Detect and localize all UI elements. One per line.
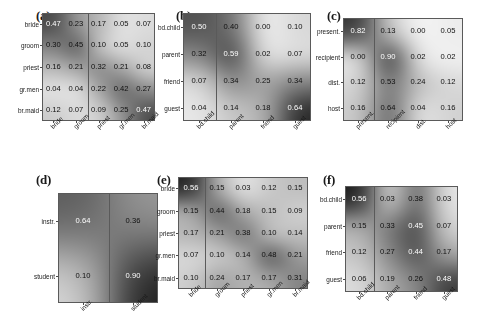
heatmap-cell-value: 0.10 bbox=[91, 42, 106, 50]
heatmap-cell-value: 0.27 bbox=[136, 85, 151, 93]
heatmap-cell-value: 0.47 bbox=[136, 106, 151, 114]
heatmap-cell-value: 0.05 bbox=[114, 20, 129, 28]
axis-tick-x bbox=[191, 289, 192, 291]
heatmap-row-label: gr.men bbox=[155, 252, 177, 259]
axis-tick-y bbox=[341, 82, 343, 83]
axis-tick-x bbox=[99, 121, 100, 123]
heatmap-image-c bbox=[343, 18, 463, 121]
heatmap-cell-value: 0.14 bbox=[224, 104, 239, 112]
heatmap-col-label: parent bbox=[383, 283, 401, 301]
heatmap-col-label: instr. bbox=[79, 297, 93, 311]
heatmap-col-label: groom bbox=[213, 280, 231, 298]
heatmap-cell-value: 0.14 bbox=[236, 252, 251, 260]
heatmap-cell-value: 0.82 bbox=[351, 27, 366, 35]
axis-tick-x bbox=[358, 121, 359, 123]
heatmap-col-label: friend bbox=[412, 285, 428, 301]
heatmap-row-label: host bbox=[328, 105, 342, 112]
heatmap-col-label: bd.child bbox=[355, 280, 376, 301]
heatmap-row-label: bd.child bbox=[320, 196, 344, 203]
heatmap-cell-value: 0.18 bbox=[256, 104, 271, 112]
heatmap-grid-d: 0.640.360.100.90instr.studentinstr.stude… bbox=[58, 193, 158, 303]
heatmap-grid-a: 0.470.230.170.050.070.300.450.100.050.10… bbox=[42, 13, 155, 121]
axis-tick-x bbox=[144, 121, 145, 123]
heatmap-cell-value: 0.05 bbox=[114, 42, 129, 50]
heatmap-row-label: student bbox=[34, 272, 57, 279]
axis-tick-x bbox=[243, 289, 244, 291]
heatmap-grid-c: 0.820.130.000.050.000.900.020.020.120.53… bbox=[343, 18, 463, 121]
axis-tick-x bbox=[231, 121, 232, 123]
heatmap-cell-value: 0.12 bbox=[262, 184, 277, 192]
heatmap-cell-value: 0.16 bbox=[441, 104, 456, 112]
axis-tick-y bbox=[40, 67, 42, 68]
heatmap-grid-f: 0.560.030.380.030.150.330.450.070.120.27… bbox=[345, 186, 458, 292]
heatmap-cell-value: 0.08 bbox=[136, 63, 151, 71]
heatmap-cell-value: 0.00 bbox=[256, 23, 271, 31]
heatmap-cell-value: 0.48 bbox=[436, 275, 451, 283]
heatmap-row-label: bride bbox=[161, 185, 177, 192]
heatmap-col-label: guest bbox=[440, 285, 456, 301]
heatmap-cell-value: 0.10 bbox=[262, 229, 277, 237]
column-separator-a bbox=[88, 14, 89, 121]
axis-tick-y bbox=[343, 199, 345, 200]
axis-tick-y bbox=[176, 278, 178, 279]
heatmap-image-e bbox=[178, 177, 308, 289]
heatmap-panel-e: (e)0.560.150.030.120.150.150.440.180.150… bbox=[0, 0, 477, 336]
heatmap-cell-value: 0.59 bbox=[224, 50, 239, 58]
heatmap-image-a bbox=[42, 13, 155, 121]
heatmap-cell-value: 0.15 bbox=[262, 207, 277, 215]
panel-label-d: (d) bbox=[36, 172, 51, 188]
heatmap-cell-value: 0.21 bbox=[288, 252, 303, 260]
heatmap-raster-d bbox=[59, 194, 158, 303]
heatmap-row-label: instr. bbox=[42, 217, 58, 224]
heatmap-cell-value: 0.02 bbox=[256, 50, 271, 58]
heatmap-cell-value: 0.15 bbox=[210, 184, 225, 192]
heatmap-grid-e: 0.560.150.030.120.150.150.440.180.150.09… bbox=[178, 177, 308, 289]
heatmap-row-label: present. bbox=[317, 27, 342, 34]
heatmap-col-label: guest bbox=[291, 114, 307, 130]
heatmap-cell-value: 0.38 bbox=[236, 229, 251, 237]
heatmap-col-label: present. bbox=[354, 109, 375, 130]
heatmap-col-label: br.maid bbox=[140, 110, 160, 130]
panel-label-b: (b) bbox=[176, 8, 191, 24]
axis-tick-x bbox=[444, 292, 445, 294]
heatmap-cell-value: 0.34 bbox=[288, 77, 303, 85]
heatmap-col-label: host bbox=[444, 116, 458, 130]
heatmap-cell-value: 0.07 bbox=[69, 106, 84, 114]
heatmap-cell-value: 0.21 bbox=[69, 63, 84, 71]
heatmap-cell-value: 0.50 bbox=[192, 23, 207, 31]
heatmap-cell-value: 0.32 bbox=[192, 50, 207, 58]
heatmap-cell-value: 0.36 bbox=[126, 217, 141, 225]
column-separator-d bbox=[109, 194, 110, 303]
heatmap-row-label: friend bbox=[164, 77, 182, 84]
heatmap-cell-value: 0.06 bbox=[352, 275, 367, 283]
heatmap-cell-value: 0.14 bbox=[288, 229, 303, 237]
heatmap-cell-value: 0.12 bbox=[46, 106, 61, 114]
axis-tick-x bbox=[295, 121, 296, 123]
heatmap-cell-value: 0.03 bbox=[380, 195, 395, 203]
heatmap-cell-value: 0.10 bbox=[76, 272, 91, 280]
heatmap-cell-value: 0.02 bbox=[411, 53, 426, 61]
heatmap-cell-value: 0.12 bbox=[351, 79, 366, 87]
heatmap-cell-value: 0.17 bbox=[184, 229, 199, 237]
heatmap-col-label: priest bbox=[95, 114, 111, 130]
heatmap-image-d bbox=[58, 193, 158, 303]
column-separator-c bbox=[374, 19, 375, 121]
heatmap-cell-value: 0.26 bbox=[408, 275, 423, 283]
axis-tick-y bbox=[181, 27, 183, 28]
heatmap-cell-value: 0.33 bbox=[380, 222, 395, 230]
heatmap-cell-value: 0.15 bbox=[352, 222, 367, 230]
axis-tick-x bbox=[388, 121, 389, 123]
heatmap-cell-value: 0.09 bbox=[91, 106, 106, 114]
axis-tick-x bbox=[359, 292, 360, 294]
heatmap-cell-value: 0.90 bbox=[381, 53, 396, 61]
heatmap-cell-value: 0.17 bbox=[436, 248, 451, 256]
heatmap-cell-value: 0.24 bbox=[411, 79, 426, 87]
column-separator-f bbox=[374, 187, 375, 292]
axis-tick-x bbox=[76, 121, 77, 123]
heatmap-row-label: bd.child bbox=[158, 23, 182, 30]
heatmap-col-label: bride bbox=[187, 283, 202, 298]
axis-tick-y bbox=[181, 81, 183, 82]
heatmap-cell-value: 0.17 bbox=[262, 274, 277, 282]
heatmap-cell-value: 0.04 bbox=[69, 85, 84, 93]
heatmap-row-label: guest bbox=[164, 104, 182, 111]
